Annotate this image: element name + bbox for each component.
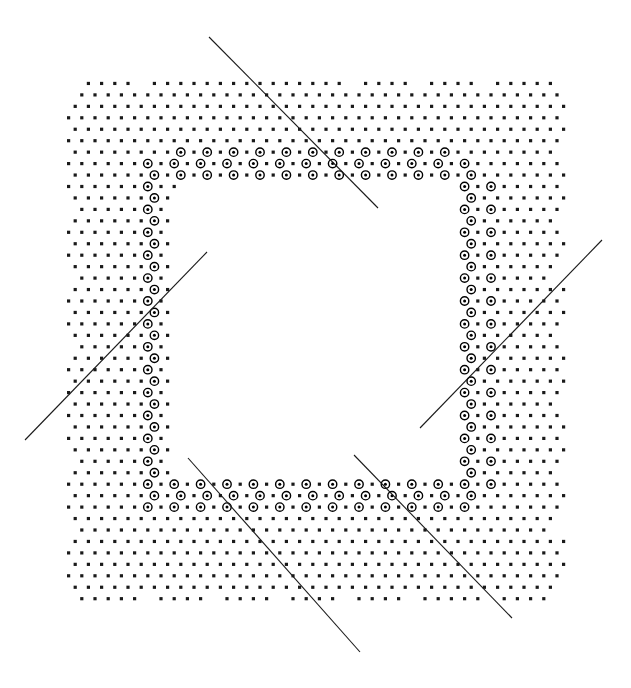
lattice-dot: [503, 185, 506, 188]
lattice-dot: [536, 311, 539, 314]
lattice-dot: [166, 196, 169, 199]
lattice-dot: [107, 437, 110, 440]
lattice-dot: [159, 162, 162, 165]
ring-marker-centre: [146, 483, 149, 486]
lattice-dot: [496, 151, 499, 154]
lattice-dot: [126, 288, 129, 291]
lattice-dot: [100, 425, 103, 428]
lattice-dot: [133, 116, 136, 119]
ring-marker-centre: [463, 162, 466, 165]
lattice-dot: [364, 517, 367, 520]
lattice-dot: [100, 196, 103, 199]
lattice-dot: [305, 139, 308, 142]
lattice-dot: [245, 540, 248, 543]
lattice-dot: [430, 105, 433, 108]
ring-marker-centre: [463, 345, 466, 348]
lattice-dot: [159, 528, 162, 531]
lattice-dot: [351, 586, 354, 589]
lattice-dot: [509, 128, 512, 131]
ring-marker-centre: [358, 483, 361, 486]
lattice-dot: [298, 563, 301, 566]
lattice-dot: [549, 265, 552, 268]
lattice-dot: [179, 128, 182, 131]
ring-marker-centre: [364, 174, 367, 177]
ring-marker-centre: [417, 174, 420, 177]
lattice-dot: [245, 517, 248, 520]
lattice-dot: [225, 93, 228, 96]
lattice-dot: [483, 219, 486, 222]
ring-marker-centre: [437, 162, 440, 165]
lattice-dot: [483, 471, 486, 474]
lattice-dot: [225, 116, 228, 119]
lattice-dot: [529, 116, 532, 119]
lattice-dot: [364, 105, 367, 108]
lattice-dot: [291, 506, 294, 509]
lattice-dot: [272, 540, 275, 543]
lattice-dot: [146, 528, 149, 531]
lattice-dot: [384, 597, 387, 600]
ring-marker-centre: [206, 174, 209, 177]
lattice-dot: [483, 540, 486, 543]
lattice-dot: [318, 116, 321, 119]
lattice-dot: [74, 357, 77, 360]
lattice-dot: [536, 173, 539, 176]
lattice-dot: [113, 586, 116, 589]
lattice-dot: [562, 173, 565, 176]
lattice-dot: [278, 116, 281, 119]
lattice-dot: [443, 105, 446, 108]
lattice-dot: [120, 277, 123, 280]
ring-marker-centre: [437, 506, 440, 509]
lattice-dot: [159, 208, 162, 211]
lattice-dot: [542, 483, 545, 486]
lattice-dot: [245, 494, 248, 497]
lattice-dot: [476, 93, 479, 96]
lattice-dot: [212, 574, 215, 577]
lattice-dot: [503, 506, 506, 509]
ring-marker-centre: [490, 391, 493, 394]
lattice-dot: [443, 517, 446, 520]
lattice-dot: [503, 345, 506, 348]
lattice-dot: [140, 425, 143, 428]
lattice-dot: [318, 574, 321, 577]
lattice-dot: [100, 380, 103, 383]
ring-marker-centre: [311, 151, 314, 154]
lattice-dot: [522, 311, 525, 314]
lattice-dot: [384, 574, 387, 577]
lattice-dot: [549, 196, 552, 199]
lattice-dot: [80, 437, 83, 440]
lattice-dot: [536, 219, 539, 222]
lattice-dot: [87, 265, 90, 268]
lattice-dot: [113, 128, 116, 131]
lattice-dot: [509, 288, 512, 291]
lattice-dot: [483, 128, 486, 131]
lattice-dot: [232, 105, 235, 108]
lattice-dot: [549, 402, 552, 405]
lattice-dot: [133, 277, 136, 280]
lattice-dot: [113, 82, 116, 85]
lattice-dot: [120, 528, 123, 531]
lattice-dot: [159, 551, 162, 554]
lattice-dot: [522, 82, 525, 85]
lattice-dot: [258, 82, 261, 85]
lattice-dot: [199, 116, 202, 119]
lattice-dot: [232, 540, 235, 543]
lattice-dot: [87, 448, 90, 451]
lattice-dot: [166, 586, 169, 589]
lattice-dot: [483, 334, 486, 337]
lattice-dot: [291, 116, 294, 119]
lattice-dot: [430, 151, 433, 154]
lattice-dot: [410, 574, 413, 577]
lattice-dot: [74, 173, 77, 176]
lattice-dot: [529, 254, 532, 257]
lattice-dot: [542, 597, 545, 600]
lattice-dot: [298, 105, 301, 108]
lattice-dot: [140, 540, 143, 543]
lattice-dot: [192, 563, 195, 566]
lattice-dot: [100, 105, 103, 108]
ring-marker-centre: [470, 494, 473, 497]
lattice-dot: [555, 437, 558, 440]
lattice-dot: [536, 471, 539, 474]
lattice-dot: [113, 425, 116, 428]
lattice-dot: [522, 425, 525, 428]
lattice-dot: [140, 105, 143, 108]
